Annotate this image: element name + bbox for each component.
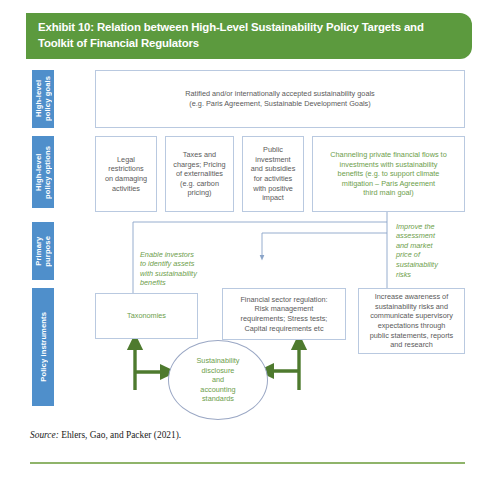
band-label: High-level policy goals [34,76,52,121]
box-text: Public investment and subsidies for acti… [247,145,300,203]
band-policy-instruments: Policy instruments [32,288,54,406]
box-instrument-financial-sector-regulation: Financial sector regulation: Risk manage… [222,288,346,340]
box-text: Legal restrictions on damaging activitie… [101,155,151,193]
box-text: Taxonomies [123,311,170,321]
box-policy-goals: Ratified and/or internationally accepted… [95,70,465,128]
box-option-public-investment: Public investment and subsidies for acti… [242,136,304,212]
box-option-taxes-charges: Taxes and charges; Pricing of externalit… [165,136,234,212]
box-option-channeling-private-flows: Channeling private financial flows to in… [312,136,465,212]
band-label: High-level policy options [34,146,52,199]
source-label: Source: [30,430,59,440]
box-option-legal-restrictions: Legal restrictions on damaging activitie… [95,136,157,212]
purpose-enable-investors: Enable investors to identify assets with… [140,240,245,288]
bottom-rule [30,462,465,464]
band-high-level-policy-options: High-level policy options [32,136,54,208]
box-instrument-increase-awareness: Increase awareness of sustainability ris… [358,288,465,354]
box-text: Financial sector regulation: Risk manage… [236,295,331,333]
box-text: Ratified and/or internationally accepted… [181,89,378,108]
purpose-text: Enable investors to identify assets with… [140,250,197,288]
exhibit-figure: Exhibit 10: Relation between High-Level … [0,0,491,478]
band-label: Policy instruments [39,312,48,382]
box-instrument-taxonomies: Taxonomies [95,293,198,339]
band-high-level-policy-goals: High-level policy goals [32,70,54,128]
exhibit-header: Exhibit 10: Relation between High-Level … [26,13,472,59]
band-label: Primary purpose [34,236,52,267]
circle-text: Sustainability disclosure and accounting… [197,356,240,404]
source-text: Ehlers, Gao, and Packer (2021). [59,430,181,440]
source-note: Source: Ehlers, Gao, and Packer (2021). [30,430,181,440]
exhibit-title: Exhibit 10: Relation between High-Level … [38,20,458,51]
box-text: Increase awareness of sustainability ris… [366,292,458,350]
circle-sustainability-disclosure: Sustainability disclosure and accounting… [168,340,268,420]
box-text: Taxes and charges; Pricing of externalit… [169,150,229,198]
purpose-improve-assessment: Improve the assessment and market price … [396,212,476,279]
purpose-text: Improve the assessment and market price … [396,222,438,279]
box-text: Channeling private financial flows to in… [326,150,450,198]
band-primary-purpose: Primary purpose [32,222,54,280]
